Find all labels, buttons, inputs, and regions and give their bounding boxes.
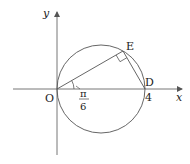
- y-axis-label: y: [42, 7, 50, 20]
- angle-numerator: π: [80, 88, 87, 99]
- x-axis-label: x: [176, 91, 183, 104]
- D-value-label: 4: [145, 91, 152, 104]
- point-E-label: E: [126, 40, 134, 53]
- right-angle-mark: [116, 55, 127, 62]
- segment-OE: [57, 51, 123, 89]
- segment-ED: [123, 51, 145, 89]
- point-D-label: D: [145, 76, 154, 89]
- angle-denominator: 6: [80, 101, 86, 112]
- origin-label: O: [45, 92, 54, 105]
- geometry-diagram: y x O E D 4 π 6: [0, 0, 190, 164]
- angle-arc: [72, 81, 74, 90]
